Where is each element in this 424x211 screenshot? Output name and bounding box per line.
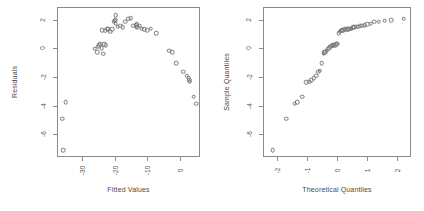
scatter-points-left <box>58 8 199 156</box>
x-tick <box>307 157 308 161</box>
x-tick-label: -20 <box>111 166 118 176</box>
y-tick <box>259 77 263 78</box>
x-tick-label: -2 <box>273 168 280 174</box>
y-tick-label: 2 <box>39 18 46 22</box>
x-tick <box>115 157 116 161</box>
data-point <box>170 50 175 55</box>
residuals-vs-fitted-panel: -30-20-100 20-2-4-6 Fitted Values Residu… <box>0 0 212 211</box>
figure-canvas: -30-20-100 20-2-4-6 Fitted Values Residu… <box>0 0 424 211</box>
x-axis-title-left: Fitted Values <box>107 186 149 193</box>
data-point <box>295 100 300 105</box>
data-point <box>101 51 106 56</box>
plot-frame-left <box>57 7 200 157</box>
data-point <box>335 41 340 46</box>
x-tick-label: -1 <box>303 168 310 174</box>
y-tick <box>53 20 57 21</box>
scatter-points-right <box>264 8 410 156</box>
data-point <box>300 94 305 99</box>
y-tick-label: -2 <box>246 74 253 80</box>
x-tick-label: 2 <box>394 169 401 173</box>
data-point <box>376 19 381 24</box>
y-tick <box>53 77 57 78</box>
data-point <box>154 31 159 36</box>
data-point <box>128 16 133 21</box>
x-tick <box>397 157 398 161</box>
data-point <box>95 50 100 55</box>
data-point <box>191 94 196 99</box>
data-point <box>383 19 388 24</box>
y-tick <box>259 106 263 107</box>
y-tick <box>259 48 263 49</box>
data-point <box>389 18 394 23</box>
data-point <box>120 25 125 30</box>
data-point <box>319 61 324 66</box>
data-point <box>402 16 407 21</box>
x-axis-title-right: Theoretical Quantiles <box>302 186 371 193</box>
data-point <box>64 100 69 105</box>
data-point <box>318 69 323 74</box>
y-tick <box>53 106 57 107</box>
y-tick-label: 0 <box>39 47 46 51</box>
data-point <box>188 79 193 84</box>
data-point <box>114 13 119 18</box>
x-tick-label: -10 <box>144 166 151 176</box>
x-tick <box>337 157 338 161</box>
data-point <box>284 116 289 121</box>
y-axis-title-right: Sample Quantiles <box>223 53 230 111</box>
y-tick <box>259 20 263 21</box>
y-tick-label: 2 <box>245 18 252 22</box>
x-tick <box>82 157 83 161</box>
x-tick-label: 1 <box>364 169 371 173</box>
y-tick <box>259 134 263 135</box>
y-tick-label: -2 <box>40 74 47 80</box>
data-point <box>148 26 153 31</box>
data-point <box>194 101 199 106</box>
x-tick-label: 0 <box>334 169 341 173</box>
x-tick-label: 0 <box>177 169 184 173</box>
y-tick-label: -6 <box>40 131 47 137</box>
normal-qq-panel: -2-1012 20-2-4-6 Theoretical Quantiles S… <box>212 0 424 211</box>
x-tick <box>367 157 368 161</box>
x-tick-label: -30 <box>78 166 85 176</box>
y-tick-label: -4 <box>246 103 253 109</box>
y-tick <box>53 134 57 135</box>
x-tick <box>180 157 181 161</box>
data-point <box>314 74 319 79</box>
y-tick-label: -6 <box>246 131 253 137</box>
y-tick <box>53 48 57 49</box>
y-tick-label: 0 <box>245 47 252 51</box>
x-tick <box>277 157 278 161</box>
y-tick-label: -4 <box>40 103 47 109</box>
y-axis-title-left: Residuals <box>11 66 18 98</box>
data-point <box>103 43 108 48</box>
x-tick <box>147 157 148 161</box>
data-point <box>60 116 65 121</box>
data-point <box>110 27 115 32</box>
data-point <box>270 148 275 153</box>
data-point <box>61 148 66 153</box>
data-point <box>174 61 179 66</box>
plot-frame-right <box>263 7 411 157</box>
